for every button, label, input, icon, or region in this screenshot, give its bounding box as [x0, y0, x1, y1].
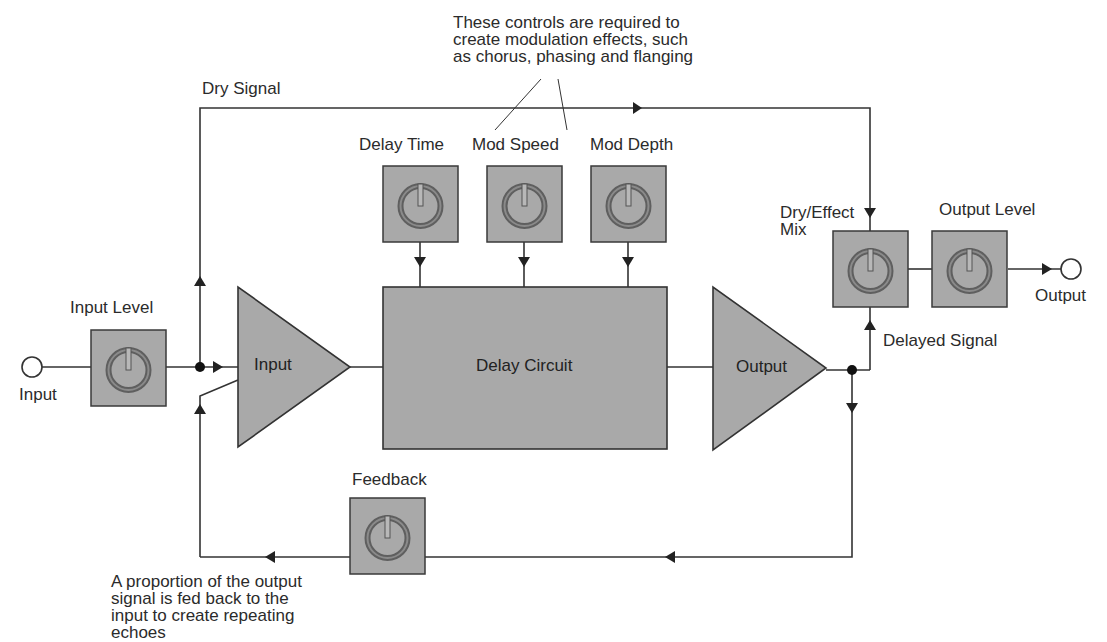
mod-depth-knob-icon — [591, 166, 666, 242]
input-junction — [195, 362, 205, 372]
mod-speed-label: Mod Speed — [472, 135, 559, 154]
output-level-label: Output Level — [939, 200, 1035, 219]
output-terminal-label: Output — [1035, 286, 1086, 305]
annotation-line: input to create repeating — [111, 607, 302, 624]
dry-effect-mix-label-line: Mix — [780, 221, 854, 238]
annotation-line: as chorus, phasing and flanging — [453, 48, 693, 65]
annotation-line: A proportion of the output — [111, 573, 302, 590]
feedback-label: Feedback — [352, 470, 427, 489]
input-level-label: Input Level — [70, 298, 153, 317]
annotation-line: These controls are required to — [453, 14, 693, 31]
output-amplifier-label: Output — [736, 357, 787, 377]
output-junction — [847, 365, 857, 375]
annotation-line: create modulation effects, such — [453, 31, 693, 48]
dry-effect-mix-knob-icon — [833, 231, 908, 307]
delay-circuit-label: Delay Circuit — [476, 356, 572, 376]
input-terminal-label: Input — [19, 385, 57, 404]
annotation-line: signal is fed back to the — [111, 590, 302, 607]
dry-signal-label: Dry Signal — [202, 79, 280, 98]
dry-effect-mix-label-line: Dry/Effect — [780, 204, 854, 221]
output-level-knob-icon — [932, 231, 1007, 307]
input-amplifier-label: Input — [254, 355, 292, 375]
annotation-line: echoes — [111, 624, 302, 641]
delayed-signal-label: Delayed Signal — [883, 331, 997, 350]
input-level-knob-icon — [91, 330, 166, 406]
output-jack-icon — [1061, 259, 1081, 279]
delay-time-label: Delay Time — [359, 135, 444, 154]
dry-effect-mix-label: Dry/Effect Mix — [780, 204, 854, 238]
feedback-annotation: A proportion of the output signal is fed… — [111, 573, 302, 641]
delay-time-knob-icon — [383, 166, 458, 242]
mod-depth-label: Mod Depth — [590, 135, 673, 154]
feedback-knob-icon — [350, 498, 425, 574]
modulation-annotation: These controls are required to create mo… — [453, 14, 693, 65]
input-jack-icon — [22, 357, 42, 377]
mod-speed-knob-icon — [487, 166, 562, 242]
